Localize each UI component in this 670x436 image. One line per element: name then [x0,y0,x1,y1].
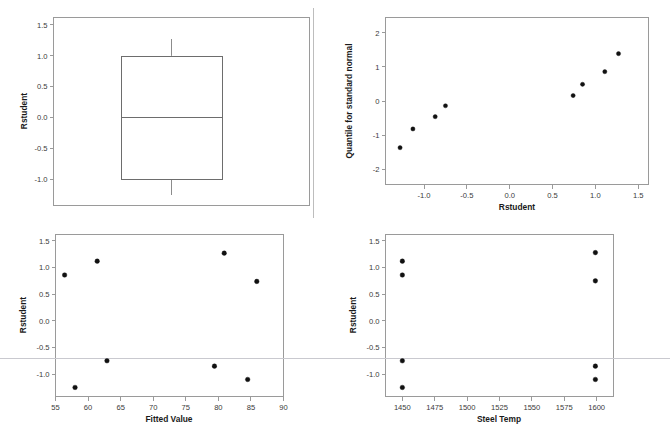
residual-vs-steel-temp-points [400,250,598,389]
qq-plot-ticks: -2-1012-1.0-0.50.00.51.01.5 [373,29,644,200]
residual-vs-fitted-data-point [105,358,110,363]
qq-plot-x-axis-title: Rstudent [499,202,536,212]
qq-plot-y-tick-label: -1 [373,131,380,140]
qq-plot-x-tick-label: 1.0 [590,191,601,200]
qq-plot-x-tick-label: -0.5 [460,191,473,200]
diagnostics-figure: -1.0-0.50.00.51.01.5 Rstudent -2-1012-1.… [0,0,670,436]
residual-vs-fitted-x-axis-title: Fitted Value [145,414,192,424]
qq-plot-data-point [433,115,437,119]
boxplot-y-ticks: -1.0-0.50.00.51.01.5 [34,21,53,185]
qq-plot-x-tick-label: 0.0 [504,191,515,200]
qq-plot-y-tick-label: 2 [375,29,379,38]
qq-plot-data-point [580,82,584,86]
y-tick-label: 1.5 [39,237,50,246]
qq-plot-frame [386,18,649,185]
x-tick-label: 65 [116,403,124,412]
y-tick-label: 0.0 [369,317,380,326]
residual-vs-fitted-y-axis-title: Rstudent [18,297,28,334]
x-tick-label: 1550 [523,403,540,412]
x-tick-label: 75 [182,403,190,412]
qq-plot-data-point [443,104,447,108]
residual-vs-fitted-data-point [95,259,100,264]
qq-plot-x-tick-label: -1.0 [418,191,431,200]
boxplot-y-tick-label: 1.5 [37,21,48,30]
residual-vs-steel-temp-data-point [593,377,598,382]
residual-vs-fitted-data-point [73,385,78,390]
qq-plot-y-tick-label: 1 [375,63,379,72]
residual-vs-steel-temp-x-axis-title: Steel Temp [477,414,521,424]
y-tick-label: 0.5 [369,290,380,299]
y-tick-label: -0.5 [366,343,379,352]
x-tick-label: 1500 [459,403,476,412]
residual-vs-fitted-svg: -1.0-0.50.00.51.01.55560657075808590 Rst… [0,218,340,436]
x-tick-label: 90 [279,403,287,412]
residual-vs-fitted-points [62,251,259,390]
panel-divider [308,0,322,224]
residual-vs-steel-temp-frame [386,235,614,397]
y-tick-label: 1.5 [369,237,380,246]
residual-vs-fitted-data-point [62,273,67,278]
boxplot-rstudent-svg: -1.0-0.50.00.51.01.5 Rstudent [0,0,330,218]
qq-plot-data-point [571,93,575,97]
x-tick-label: 55 [51,403,59,412]
residual-vs-fitted-frame [56,235,284,397]
residual-vs-fitted-data-point [212,364,217,369]
qq-plot-data-point [616,52,620,56]
y-tick-label: 1.0 [369,263,380,272]
qq-plot-points [398,52,621,150]
boxplot-y-tick-label: 0.0 [37,113,48,122]
residual-vs-fitted-data-point [222,251,227,256]
boxplot-y-tick-label: 0.5 [37,82,48,91]
panel-residual-vs-fitted: -1.0-0.50.00.51.01.55560657075808590 Rst… [0,218,340,436]
y-tick-label: 0.0 [39,317,50,326]
qq-plot-data-point [398,146,402,150]
qq-plot-data-point [411,127,415,131]
x-tick-label: 70 [149,403,157,412]
qq-plot-x-tick-label: 1.5 [633,191,644,200]
boxplot-body [121,39,223,195]
y-tick-label: 0.5 [39,290,50,299]
x-tick-label: 85 [247,403,255,412]
residual-vs-steel-temp-svg: -1.0-0.50.00.51.01.514501475150015251550… [330,218,670,436]
qq-plot-svg: -2-1012-1.0-0.50.00.51.01.5 Quantile for… [330,0,670,218]
x-tick-label: 80 [214,403,222,412]
y-tick-label: 1.0 [39,263,50,272]
residual-vs-steel-temp-data-point [400,358,405,363]
residual-vs-fitted-data-point [254,279,259,284]
x-tick-label: 1475 [426,403,443,412]
boxplot-y-tick-label: -0.5 [34,144,47,153]
panel-residual-vs-steel-temp: -1.0-0.50.00.51.01.514501475150015251550… [330,218,670,436]
y-tick-label: -1.0 [36,370,49,379]
residual-vs-steel-temp-data-point [593,279,598,284]
boxplot-y-tick-label: 1.0 [37,52,48,61]
residual-vs-steel-temp-data-point [593,364,598,369]
qq-plot-y-tick-label: -2 [373,165,380,174]
panel-boxplot-rstudent: -1.0-0.50.00.51.01.5 Rstudent [0,0,330,218]
residual-vs-steel-temp-data-point [400,273,405,278]
residual-vs-steel-temp-y-axis-title: Rstudent [348,297,358,334]
qq-plot-x-tick-label: 0.5 [547,191,558,200]
residual-vs-steel-temp-data-point [400,385,405,390]
residual-vs-steel-temp-data-point [400,259,405,264]
x-tick-label: 1575 [556,403,573,412]
y-tick-label: -0.5 [36,343,49,352]
boxplot-y-axis-title: Rstudent [19,93,29,130]
residual-vs-steel-temp-data-point [593,250,598,255]
panel-qq-plot: -2-1012-1.0-0.50.00.51.01.5 Quantile for… [330,0,670,218]
x-tick-label: 1525 [491,403,508,412]
y-tick-label: -1.0 [366,370,379,379]
qq-plot-data-point [603,70,607,74]
x-tick-label: 60 [84,403,92,412]
x-tick-label: 1600 [588,403,605,412]
qq-plot-y-tick-label: 0 [375,97,379,106]
qq-plot-y-axis-title: Quantile for standard normal [344,44,354,159]
boxplot-y-tick-label: -1.0 [34,175,47,184]
residual-vs-fitted-data-point [245,377,250,382]
x-tick-label: 1450 [394,403,411,412]
